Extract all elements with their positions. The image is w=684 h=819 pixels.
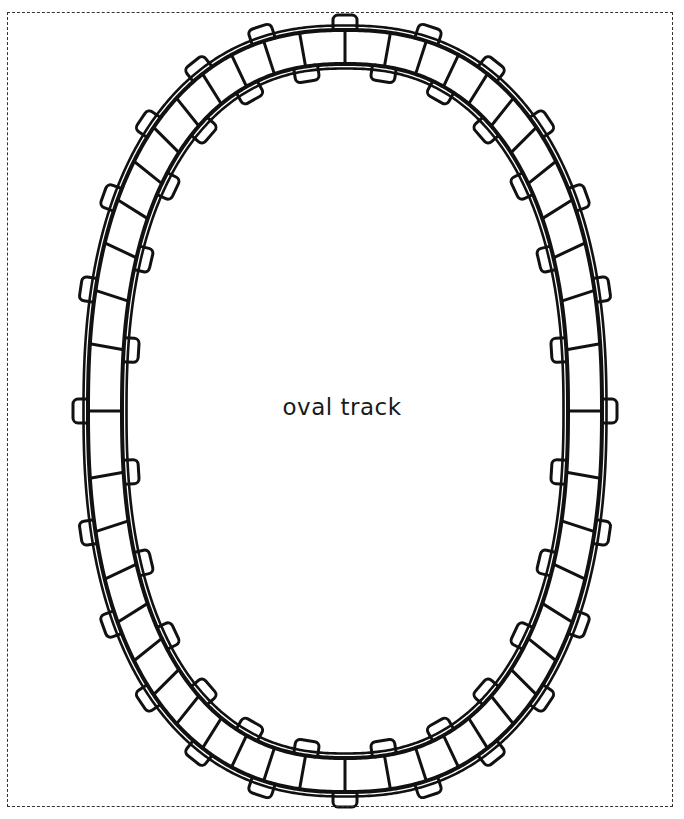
track-label: oval track <box>0 394 684 420</box>
coloring-page: oval track <box>0 0 684 819</box>
